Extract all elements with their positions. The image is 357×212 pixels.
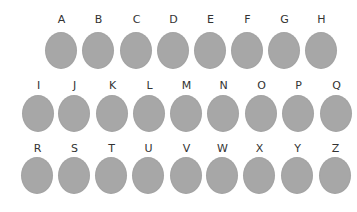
- letter-label: A: [45, 14, 78, 26]
- letter-label: G: [268, 14, 301, 26]
- gray-disc[interactable]: [282, 95, 314, 132]
- gray-disc[interactable]: [95, 157, 127, 194]
- letter-disc-board: ABCDEFGHIJKLMNOPQRSTUVWXYZ: [0, 0, 357, 212]
- gray-disc[interactable]: [170, 95, 202, 132]
- letter-label: M: [170, 80, 203, 92]
- letter-label: K: [96, 80, 129, 92]
- gray-disc[interactable]: [206, 157, 238, 194]
- letter-label: R: [21, 143, 54, 155]
- gray-disc[interactable]: [96, 95, 128, 132]
- letter-label: I: [22, 80, 55, 92]
- letter-label: E: [194, 14, 227, 26]
- gray-disc[interactable]: [320, 95, 352, 132]
- gray-disc[interactable]: [194, 32, 226, 69]
- gray-disc[interactable]: [45, 32, 77, 69]
- gray-disc[interactable]: [132, 157, 164, 194]
- letter-label: Z: [319, 143, 352, 155]
- gray-disc[interactable]: [243, 157, 275, 194]
- letter-label: T: [95, 143, 128, 155]
- gray-disc[interactable]: [22, 95, 54, 132]
- gray-disc[interactable]: [133, 95, 165, 132]
- gray-disc[interactable]: [120, 32, 152, 69]
- gray-disc[interactable]: [21, 157, 53, 194]
- letter-label: W: [206, 143, 239, 155]
- gray-disc[interactable]: [170, 157, 202, 194]
- gray-disc[interactable]: [58, 95, 90, 132]
- letter-label: H: [305, 14, 338, 26]
- gray-disc[interactable]: [231, 32, 263, 69]
- gray-disc[interactable]: [82, 32, 114, 69]
- letter-label: P: [282, 80, 315, 92]
- letter-label: Q: [320, 80, 353, 92]
- gray-disc[interactable]: [268, 32, 300, 69]
- letter-label: O: [245, 80, 278, 92]
- letter-label: D: [157, 14, 190, 26]
- letter-label: L: [133, 80, 166, 92]
- gray-disc[interactable]: [245, 95, 277, 132]
- letter-label: Y: [281, 143, 314, 155]
- gray-disc[interactable]: [157, 32, 189, 69]
- gray-disc[interactable]: [319, 157, 351, 194]
- letter-label: U: [132, 143, 165, 155]
- letter-label: B: [82, 14, 115, 26]
- letter-label: J: [58, 80, 91, 92]
- letter-label: F: [231, 14, 264, 26]
- gray-disc[interactable]: [281, 157, 313, 194]
- gray-disc[interactable]: [305, 32, 337, 69]
- gray-disc[interactable]: [58, 157, 90, 194]
- letter-label: V: [170, 143, 203, 155]
- letter-label: S: [58, 143, 91, 155]
- letter-label: C: [120, 14, 153, 26]
- letter-label: N: [207, 80, 240, 92]
- letter-label: X: [243, 143, 276, 155]
- gray-disc[interactable]: [207, 95, 239, 132]
